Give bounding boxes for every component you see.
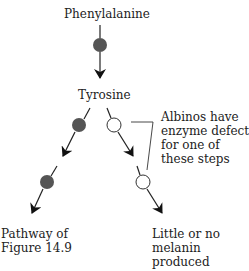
right-branch <box>107 108 162 213</box>
outcome-line: produced <box>152 255 220 269</box>
annotation-bracket <box>131 122 153 170</box>
enzyme-defective-icon <box>136 175 150 189</box>
step-phenylalanine-to-tyrosine <box>93 25 107 78</box>
outcome-line: Figure 14.9 <box>1 241 72 255</box>
outcome-right-no-melanin: Little or no melanin produced <box>152 227 220 269</box>
enzyme-defective-icon <box>107 118 121 132</box>
outcome-line: Pathway of <box>1 227 72 241</box>
outcome-left-pathway: Pathway of Figure 14.9 <box>1 227 72 255</box>
annotation-line: for one of <box>161 138 249 152</box>
outcome-line: melanin <box>152 241 220 255</box>
enzyme-functional-icon <box>40 175 54 189</box>
annotation-albinos: Albinos have enzyme defect for one of th… <box>161 110 249 166</box>
node-tyrosine: Tyrosine <box>78 88 131 102</box>
annotation-line: these steps <box>161 152 249 166</box>
annotation-line: Albinos have <box>161 110 249 124</box>
outcome-line: Little or no <box>152 227 220 241</box>
enzyme-functional-icon <box>72 118 86 132</box>
annotation-line: enzyme defect <box>161 124 249 138</box>
pathway-diagram: Phenylalanine Tyrosine Albinos have enzy… <box>0 0 249 271</box>
node-phenylalanine: Phenylalanine <box>64 7 150 21</box>
left-branch <box>32 108 90 213</box>
enzyme-functional-icon <box>93 38 107 52</box>
